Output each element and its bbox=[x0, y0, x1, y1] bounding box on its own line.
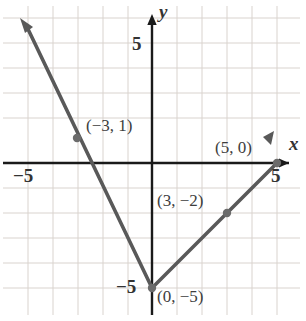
point-marker-neg3-1 bbox=[73, 134, 81, 142]
point-label-0-neg5: (0, −5) bbox=[157, 288, 203, 305]
y-tick-label-neg5: −5 bbox=[116, 277, 136, 296]
point-marker-0-neg5 bbox=[148, 284, 156, 292]
coordinate-plane-svg bbox=[0, 0, 306, 321]
point-marker-3-neg2 bbox=[223, 209, 231, 217]
right-branch-arrowhead bbox=[263, 131, 274, 145]
graph-canvas: y x 5 −5 −5 5 (−3, 1) (0, −5) (3, −2) (5… bbox=[0, 0, 306, 321]
left-branch-arrowhead bbox=[20, 18, 33, 33]
point-label-neg3-1: (−3, 1) bbox=[86, 117, 132, 134]
point-label-5-0: (5, 0) bbox=[215, 139, 252, 156]
y-axis-label: y bbox=[159, 2, 167, 21]
point-label-3-neg2: (3, −2) bbox=[157, 192, 203, 209]
x-axis-label: x bbox=[289, 134, 299, 153]
x-tick-label-neg5: −5 bbox=[13, 166, 33, 185]
y-axis-arrowhead bbox=[147, 14, 156, 25]
x-tick-label-5: 5 bbox=[271, 166, 281, 185]
y-tick-label-5: 5 bbox=[132, 34, 142, 53]
